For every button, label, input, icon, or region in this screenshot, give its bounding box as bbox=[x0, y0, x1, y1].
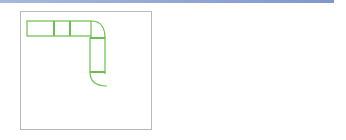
top-accent-bar bbox=[0, 0, 334, 3]
incorrect-pipe-route bbox=[21, 12, 153, 131]
before-panel bbox=[20, 11, 152, 130]
